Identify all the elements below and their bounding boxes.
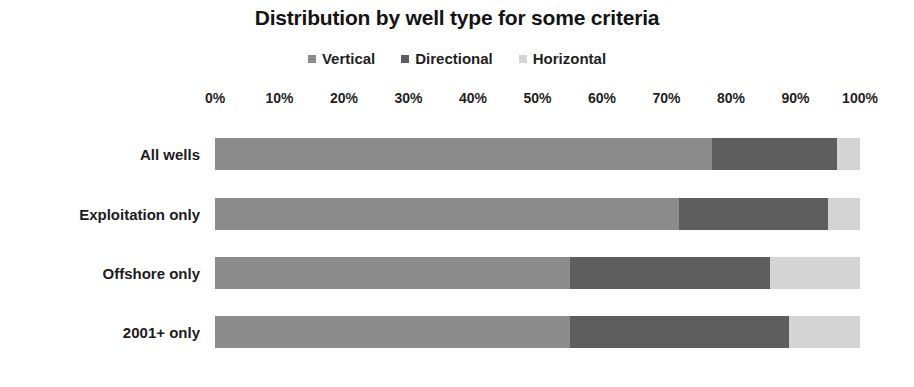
chart-legend: Vertical Directional Horizontal <box>0 50 914 67</box>
stacked-bar-exploitation-only[interactable] <box>215 198 860 230</box>
bar-row: Offshore only <box>0 243 914 303</box>
legend-item-vertical[interactable]: Vertical <box>308 50 375 67</box>
stacked-bar-offshore-only[interactable] <box>215 257 860 289</box>
x-axis: 0% 10% 20% 30% 40% 50% 60% 70% 80% 90% 1… <box>215 90 860 110</box>
bar-row: 2001+ only <box>0 302 914 362</box>
x-axis-tick-80: 80% <box>717 90 745 106</box>
legend-swatch-vertical-icon <box>308 55 316 63</box>
legend-item-directional[interactable]: Directional <box>401 50 493 67</box>
chart-title: Distribution by well type for some crite… <box>0 6 914 30</box>
category-label-offshore-only: Offshore only <box>0 265 200 282</box>
legend-swatch-horizontal-icon <box>519 55 527 63</box>
bar-segment-horizontal[interactable] <box>828 198 860 230</box>
legend-item-horizontal[interactable]: Horizontal <box>519 50 606 67</box>
bar-segment-vertical[interactable] <box>215 198 679 230</box>
bar-segment-horizontal[interactable] <box>770 257 860 289</box>
plot-area: All wells Exploitation only Offshore onl… <box>0 118 914 378</box>
bar-segment-vertical[interactable] <box>215 257 570 289</box>
bar-segment-horizontal[interactable] <box>789 316 860 348</box>
chart-container: Distribution by well type for some crite… <box>0 0 914 387</box>
x-axis-tick-70: 70% <box>652 90 680 106</box>
stacked-bar-all-wells[interactable] <box>215 138 860 170</box>
bar-row: All wells <box>0 124 914 184</box>
x-axis-tick-60: 60% <box>588 90 616 106</box>
x-axis-tick-100: 100% <box>842 90 878 106</box>
bar-segment-horizontal[interactable] <box>837 138 860 170</box>
x-axis-tick-30: 30% <box>394 90 422 106</box>
x-axis-tick-90: 90% <box>781 90 809 106</box>
bar-segment-directional[interactable] <box>679 198 827 230</box>
bar-segment-vertical[interactable] <box>215 138 712 170</box>
category-label-2001-plus-only: 2001+ only <box>0 324 200 341</box>
bar-segment-directional[interactable] <box>712 138 838 170</box>
x-axis-tick-50: 50% <box>523 90 551 106</box>
bar-segment-vertical[interactable] <box>215 316 570 348</box>
legend-label-horizontal: Horizontal <box>533 50 606 67</box>
legend-label-directional: Directional <box>415 50 493 67</box>
x-axis-tick-0: 0% <box>205 90 225 106</box>
bar-segment-directional[interactable] <box>570 257 770 289</box>
x-axis-tick-20: 20% <box>330 90 358 106</box>
legend-swatch-directional-icon <box>401 55 409 63</box>
bar-segment-directional[interactable] <box>570 316 789 348</box>
x-axis-tick-10: 10% <box>265 90 293 106</box>
category-label-exploitation-only: Exploitation only <box>0 206 200 223</box>
stacked-bar-2001-plus-only[interactable] <box>215 316 860 348</box>
x-axis-tick-40: 40% <box>459 90 487 106</box>
legend-label-vertical: Vertical <box>322 50 375 67</box>
category-label-all-wells: All wells <box>0 146 200 163</box>
bar-row: Exploitation only <box>0 184 914 244</box>
